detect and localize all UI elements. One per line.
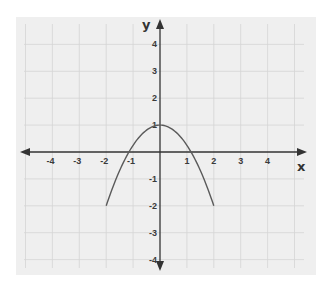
y-tick-label: -4 xyxy=(149,255,157,265)
x-tick-label: -3 xyxy=(73,156,81,166)
x-tick-label: -1 xyxy=(127,156,135,166)
y-tick-label: -2 xyxy=(149,201,157,211)
x-tick-label: 3 xyxy=(238,156,243,166)
x-tick-label: 1 xyxy=(184,156,189,166)
x-tick-label: 2 xyxy=(211,156,216,166)
x-tick-label: -4 xyxy=(46,156,54,166)
y-tick-label: -1 xyxy=(149,174,157,184)
y-tick-label: -3 xyxy=(149,228,157,238)
x-axis-label: x xyxy=(297,159,306,174)
y-tick-label: 2 xyxy=(152,93,157,103)
graph-paper xyxy=(16,17,316,275)
coordinate-plane-chart: -4-3-2-11234 4321-1-2-3-4 x y xyxy=(0,0,327,291)
y-tick-label: 3 xyxy=(152,66,157,76)
y-axis-label: y xyxy=(142,17,151,32)
x-tick-label: -2 xyxy=(100,156,108,166)
y-tick-label: 4 xyxy=(152,39,157,49)
x-tick-label: 4 xyxy=(265,156,270,166)
